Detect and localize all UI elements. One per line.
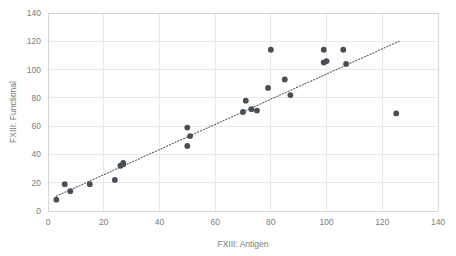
x-tick-label: 60 (210, 217, 220, 227)
data-point (67, 188, 73, 194)
x-axis-title: FXIII: Antigen (217, 239, 268, 249)
y-tick-label: 0 (36, 206, 41, 216)
data-point (87, 181, 93, 187)
data-point (254, 108, 260, 114)
data-point (340, 47, 346, 53)
data-point (184, 143, 190, 149)
x-tick-label: 40 (155, 217, 165, 227)
data-point (243, 98, 249, 104)
y-tick-label: 60 (32, 121, 42, 131)
data-point (112, 177, 118, 183)
x-tick-label: 80 (266, 217, 276, 227)
y-tick-label: 100 (27, 65, 41, 75)
data-point (240, 109, 246, 115)
data-point (248, 106, 254, 112)
data-point (265, 85, 271, 91)
y-tick-label: 80 (32, 93, 42, 103)
data-point (282, 77, 288, 83)
x-tick-label: 0 (46, 217, 51, 227)
chart-svg: 020406080100120140 020406080100120140 FX… (0, 0, 456, 256)
data-point (343, 61, 349, 67)
data-point (287, 92, 293, 98)
data-point (184, 125, 190, 131)
data-point (324, 58, 330, 64)
x-tick-label: 100 (319, 217, 333, 227)
data-point (120, 160, 126, 166)
data-point (62, 181, 68, 187)
data-point (268, 47, 274, 53)
data-point (393, 111, 399, 117)
y-tick-label: 140 (27, 8, 41, 18)
y-tick-label: 120 (27, 36, 41, 46)
y-axis-title: FXIII: Functional (8, 81, 18, 143)
data-point (187, 133, 193, 139)
x-tick-label: 140 (431, 217, 445, 227)
y-tick-label: 40 (32, 149, 42, 159)
data-point (53, 197, 59, 203)
scatter-chart: 020406080100120140 020406080100120140 FX… (0, 0, 456, 256)
y-tick-label: 20 (32, 178, 42, 188)
x-tick-label: 120 (375, 217, 389, 227)
data-point (321, 47, 327, 53)
x-tick-label: 20 (99, 217, 109, 227)
